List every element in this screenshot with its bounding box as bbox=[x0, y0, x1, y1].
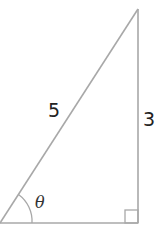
opposite-label: 3 bbox=[143, 108, 155, 130]
hypotenuse bbox=[0, 9, 138, 223]
angle-theta-label: θ bbox=[35, 193, 45, 212]
hypotenuse-label: 5 bbox=[48, 99, 60, 121]
right-angle-marker bbox=[125, 210, 138, 223]
angle-arc bbox=[19, 195, 33, 224]
triangle-diagram: 5 3 θ bbox=[0, 0, 163, 230]
